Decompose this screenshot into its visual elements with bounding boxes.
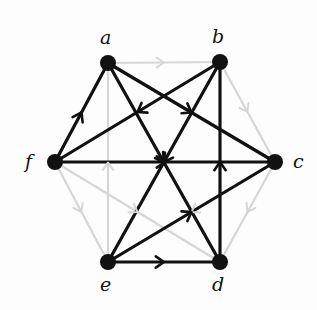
vertex-f	[47, 154, 63, 170]
vertex-label-e: e	[100, 275, 111, 294]
vertex-label-c: c	[293, 152, 304, 171]
vertex-a	[100, 55, 116, 71]
vertex-b	[212, 54, 228, 70]
graph-canvas	[0, 0, 317, 310]
vertex-label-b: b	[212, 27, 224, 46]
vertex-label-f: f	[25, 152, 32, 171]
vertex-label-d: d	[212, 275, 224, 294]
vertex-e	[100, 254, 116, 270]
graph-figure: abcdef	[0, 0, 317, 310]
vertex-d	[212, 254, 228, 270]
vertex-c	[267, 154, 283, 170]
vertex-label-a: a	[100, 28, 111, 47]
